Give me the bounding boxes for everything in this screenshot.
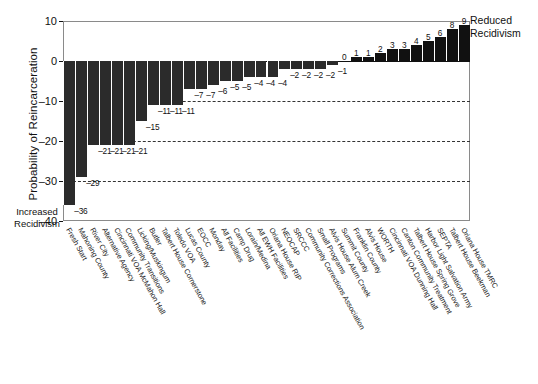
- bar: [255, 61, 267, 77]
- bar-value-label: –1: [338, 66, 347, 76]
- bar: [398, 49, 410, 61]
- bar: [99, 61, 111, 145]
- bar: [422, 41, 434, 61]
- bar: [362, 57, 374, 61]
- reduced-recidivism-line1: Reduced: [470, 14, 538, 27]
- bar-value-label: –4: [254, 78, 263, 88]
- bar-value-label: –4: [278, 78, 287, 88]
- bar-value-label: –2: [326, 70, 335, 80]
- y-tick-label: 10: [17, 15, 63, 27]
- bar-value-label: 8: [450, 20, 454, 30]
- bar: [290, 61, 302, 69]
- bar: [63, 61, 75, 205]
- reduced-recidivism-line2: Recidivism: [470, 27, 538, 40]
- y-axis-title: Probability of Reincarceration: [27, 19, 39, 229]
- bar: [446, 29, 458, 61]
- bar: [171, 61, 183, 105]
- bar: [302, 61, 314, 69]
- bar-value-label: –7: [206, 90, 215, 100]
- bar: [111, 61, 123, 145]
- gridline: [63, 181, 470, 182]
- bar: [434, 37, 446, 61]
- reduced-recidivism-annotation: Reduced Recidivism: [470, 14, 538, 40]
- bar: [243, 61, 255, 77]
- bar-value-label: –36: [74, 206, 87, 216]
- bar: [314, 61, 326, 69]
- bar-value-label: –4: [266, 78, 275, 88]
- bar-value-label: –29: [86, 178, 99, 188]
- bar-value-label: –11: [158, 106, 171, 116]
- bar-value-label: –5: [230, 82, 239, 92]
- bar: [123, 61, 135, 145]
- y-tick-mark: [59, 221, 63, 222]
- bar-value-label: –2: [302, 70, 311, 80]
- bar: [207, 61, 219, 85]
- bar-value-label: 9: [462, 16, 466, 26]
- bar-value-label: –11: [182, 106, 195, 116]
- plot-area: 100–10–20–30–40 –36–29–21–21–21–21–15–11…: [63, 21, 470, 221]
- bar: [458, 25, 470, 61]
- bar-value-label: 3: [402, 40, 406, 50]
- bar-value-label: 1: [354, 48, 358, 58]
- bar: [374, 53, 386, 61]
- bar-value-label: –2: [290, 70, 299, 80]
- y-tick-label: –30: [17, 175, 63, 187]
- chart-figure: Probability of Reincarceration Increased…: [0, 0, 538, 384]
- y-tick-label: –20: [17, 135, 63, 147]
- bar: [267, 61, 279, 77]
- bar-value-label: 2: [378, 44, 382, 54]
- bar: [195, 61, 207, 89]
- bar: [159, 61, 171, 105]
- bar: [135, 61, 147, 121]
- bar: [147, 61, 159, 105]
- bar: [350, 57, 362, 61]
- figure-caption: [0, 372, 538, 384]
- bar: [87, 61, 99, 145]
- y-tick-label: 0: [17, 55, 63, 67]
- y-tick-label: –40: [17, 215, 63, 227]
- bar: [278, 61, 290, 69]
- bar: [326, 61, 338, 65]
- bar: [386, 49, 398, 61]
- bar-value-label: –5: [242, 82, 251, 92]
- bar-value-label: –15: [146, 122, 159, 132]
- bar-value-label: –21: [134, 146, 147, 156]
- bar: [410, 45, 422, 61]
- bar-value-label: 1: [366, 48, 370, 58]
- bar-value-label: –6: [218, 86, 227, 96]
- y-tick-mark: [59, 21, 63, 22]
- bar-value-label: 3: [390, 40, 394, 50]
- bar: [183, 61, 195, 89]
- bar-value-label: 4: [414, 36, 418, 46]
- bar-value-label: –11: [170, 106, 183, 116]
- bar: [75, 61, 87, 177]
- bar-value-label: 5: [426, 32, 430, 42]
- y-tick-label: –10: [17, 95, 63, 107]
- bar: [231, 61, 243, 81]
- bar-value-label: 0: [342, 52, 346, 62]
- bar-value-label: –7: [194, 90, 203, 100]
- bar: [219, 61, 231, 81]
- bar-value-label: 6: [438, 28, 442, 38]
- bar-value-label: –2: [314, 70, 323, 80]
